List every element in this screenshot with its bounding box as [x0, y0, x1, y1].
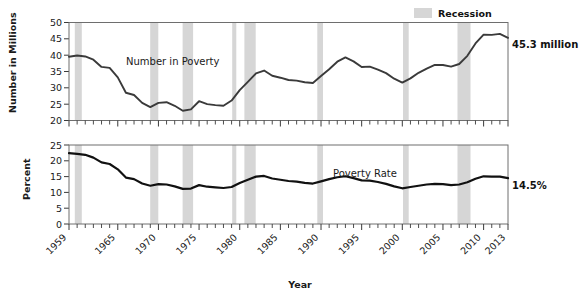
- bottom-yaxis-title: Percent: [21, 158, 32, 200]
- panel-number-in-poverty: Number in Millions 50 45 40 35 30 25 20: [7, 12, 578, 126]
- xtick-label-2000: 2000: [377, 232, 402, 257]
- xtick-label-1965: 1965: [92, 232, 117, 257]
- xtick-label-1975: 1975: [174, 232, 199, 257]
- recession-band-1960-b: [75, 145, 82, 224]
- poverty-rate-line: [69, 153, 508, 189]
- legend: Recession: [414, 8, 492, 19]
- xtick-label-2010: 2010: [458, 232, 483, 257]
- bottom-series-label: Poverty Rate: [333, 168, 397, 179]
- recession-band-1973-b: [183, 145, 194, 224]
- bottom-ytick-20: 20: [50, 155, 62, 166]
- xtick-label-1959: 1959: [44, 232, 69, 257]
- recession-band-1981: [244, 23, 255, 121]
- bottom-yaxis-ticks: 25 20 15 10 5 0: [50, 140, 69, 230]
- top-ytick-40: 40: [50, 50, 62, 61]
- top-ytick-45: 45: [50, 33, 62, 44]
- legend-recession-swatch: [414, 8, 432, 18]
- dual-panel-line-chart: Recession Number in Millions 50 45 40 35…: [0, 0, 585, 304]
- top-ytick-50: 50: [50, 17, 62, 28]
- bottom-ytick-25: 25: [50, 140, 62, 151]
- xtick-label-1990: 1990: [296, 232, 321, 257]
- bottom-ytick-10: 10: [50, 187, 62, 198]
- recession-band-2001-b: [403, 145, 409, 224]
- top-xaxis-ticks: [69, 121, 508, 127]
- xtick-label-1980: 1980: [214, 232, 239, 257]
- xtick-label-2013: 2013: [483, 232, 508, 257]
- xtick-label-2005: 2005: [417, 232, 442, 257]
- recession-band-2001: [403, 23, 409, 121]
- top-ytick-20: 20: [50, 115, 62, 126]
- xtick-label-1995: 1995: [336, 232, 361, 257]
- top-plot-frame: [69, 23, 508, 121]
- top-yaxis-title: Number in Millions: [7, 12, 18, 113]
- bottom-recession-bands: [75, 145, 471, 224]
- xaxis-title: Year: [287, 279, 312, 290]
- bottom-endpoint-label: 14.5%: [512, 180, 547, 191]
- top-series-label: Number in Poverty: [126, 56, 220, 67]
- top-yaxis-ticks: 50 45 40 35 30 25 20: [50, 17, 69, 126]
- xtick-label-1985: 1985: [255, 232, 280, 257]
- poverty-chart-figure: Recession Number in Millions 50 45 40 35…: [0, 0, 585, 304]
- recession-band-1973: [183, 23, 194, 121]
- top-ytick-25: 25: [50, 99, 62, 110]
- recession-band-1990-b: [317, 145, 323, 224]
- recession-band-2008: [458, 23, 471, 121]
- legend-recession-label: Recession: [438, 8, 492, 19]
- bottom-xaxis-ticks: [69, 224, 508, 230]
- recession-band-1990: [317, 23, 323, 121]
- recession-band-1960: [75, 23, 82, 121]
- bottom-ytick-5: 5: [56, 203, 62, 214]
- bottom-ytick-15: 15: [50, 171, 62, 182]
- recession-band-1980: [232, 23, 236, 121]
- recession-band-1981-b: [244, 145, 255, 224]
- top-ytick-35: 35: [50, 66, 62, 77]
- panel-poverty-rate: Percent 25 20 15 10 5 0: [21, 140, 547, 291]
- bottom-xaxis-labels: 1959196519701975198019851990199520002005…: [44, 232, 508, 257]
- top-endpoint-label: 45.3 million: [512, 39, 578, 50]
- xtick-label-1970: 1970: [133, 232, 158, 257]
- number-in-poverty-line: [69, 34, 508, 111]
- top-recession-bands: [75, 23, 471, 121]
- bottom-ytick-0: 0: [56, 219, 62, 230]
- top-ytick-30: 30: [50, 82, 62, 93]
